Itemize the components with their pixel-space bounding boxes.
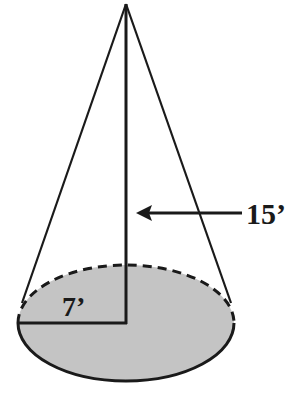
cone-right-side	[126, 4, 231, 303]
radius-label: 7’	[62, 291, 85, 322]
height-label: 15’	[246, 197, 286, 230]
cone-diagram: 15’ 7’	[0, 0, 305, 411]
cone-left-side	[22, 4, 126, 303]
